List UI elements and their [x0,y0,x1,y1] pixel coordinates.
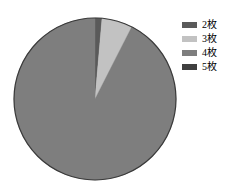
pie-slice-group [14,18,176,180]
legend-item-2mai[interactable]: 2枚 [182,19,240,30]
legend-item-5mai[interactable]: 5枚 [182,61,240,72]
legend-label-5mai: 5枚 [202,61,217,72]
legend-swatch-icon-3mai [182,36,197,42]
pie-slice-3[interactable] [14,18,176,180]
legend-label-3mai: 3枚 [202,33,217,44]
pie-plot-area [0,0,190,194]
legend-label-4mai: 4枚 [202,47,217,58]
legend-swatch-icon-2mai [182,22,197,28]
legend-swatch-icon-5mai [182,64,197,70]
legend: 2枚 3枚 4枚 5枚 [182,19,240,72]
legend-swatch-icon-4mai [182,50,197,56]
legend-item-4mai[interactable]: 4枚 [182,47,240,58]
legend-label-2mai: 2枚 [202,19,217,30]
pie-svg [0,0,190,194]
legend-item-3mai[interactable]: 3枚 [182,33,240,44]
pie-chart: 2枚 3枚 4枚 5枚 [0,0,240,194]
